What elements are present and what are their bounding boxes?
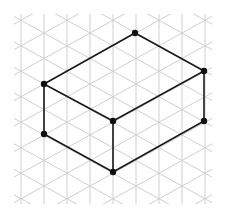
isometric-grid	[0, 0, 225, 210]
vertex-dot-top-left	[41, 81, 47, 87]
vertex-dot-top-right	[201, 68, 207, 74]
vertex-dot-bottom-left	[41, 131, 47, 137]
vertex-dot-bottom-right	[201, 118, 207, 124]
vertex-dot-top-back	[132, 30, 138, 36]
grid-line-diagonal-up	[0, 0, 225, 9]
isometric-diagram	[0, 0, 225, 210]
diagram-svg	[0, 0, 225, 210]
vertex-dot-bottom-front	[110, 169, 116, 175]
vertex-dot-top-front	[110, 118, 116, 124]
